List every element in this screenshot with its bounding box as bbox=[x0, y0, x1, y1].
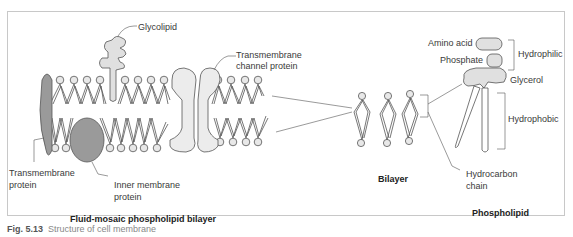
label-amino-acid: Amino acid bbox=[428, 38, 473, 49]
upper-leaflet-left bbox=[50, 76, 264, 104]
label-hydrophobic: Hydrophobic bbox=[508, 114, 559, 125]
membrane-diagram bbox=[0, 0, 573, 237]
figure-caption-prefix: Fig. 5.13 bbox=[7, 224, 43, 234]
label-hydrocarbon-line2: chain bbox=[466, 181, 488, 192]
figure-caption-text: Structure of cell membrane bbox=[48, 224, 156, 234]
glycerol-shape bbox=[464, 68, 507, 88]
bilayer-units bbox=[354, 90, 418, 146]
label-channel-protein-line1: Transmembrane bbox=[236, 50, 302, 61]
label-phosphate: Phosphate bbox=[440, 55, 483, 66]
label-transmembrane-protein-line2: protein bbox=[9, 180, 37, 191]
label-glycolipid: Glycolipid bbox=[138, 22, 177, 33]
inner-membrane-protein-shape bbox=[70, 118, 104, 162]
label-inner-membrane-protein-line2: protein bbox=[114, 192, 142, 203]
label-hydrocarbon-line1: Hydrocarbon bbox=[466, 169, 518, 180]
label-channel-protein-line2: channel protein bbox=[236, 61, 298, 72]
channel-protein-left bbox=[170, 68, 196, 152]
amino-acid-shape bbox=[476, 38, 502, 50]
title-fluid-mosaic: Fluid-mosaic phospholipid bilayer bbox=[70, 214, 216, 224]
phosphate-shape bbox=[487, 54, 502, 67]
channel-protein-right bbox=[198, 68, 220, 152]
title-phospholipid: Phospholipid bbox=[472, 208, 529, 218]
transmembrane-protein-shape bbox=[40, 74, 52, 155]
label-inner-membrane-protein-line1: Inner membrane bbox=[114, 180, 180, 191]
label-glycerol: Glycerol bbox=[510, 75, 543, 86]
label-hydrophilic: Hydrophilic bbox=[518, 49, 563, 60]
label-transmembrane-protein-line1: Transmembrane bbox=[9, 168, 75, 179]
figure-caption: Fig. 5.13 Structure of cell membrane bbox=[7, 224, 156, 234]
title-bilayer: Bilayer bbox=[378, 174, 408, 184]
